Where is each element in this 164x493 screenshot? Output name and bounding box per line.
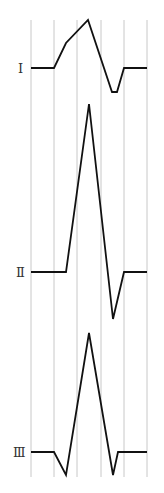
lead-ii-label: Ⅱ (16, 265, 25, 280)
lead-iii-label: Ⅲ (13, 445, 26, 460)
lead-ii: Ⅱ (16, 104, 147, 319)
lead-iii: Ⅲ (13, 333, 147, 475)
ecg-diagram: Ⅰ Ⅱ Ⅲ (0, 0, 164, 493)
grid-lines (31, 20, 147, 477)
lead-i-label: Ⅰ (18, 61, 23, 76)
lead-i-waveform (31, 20, 147, 92)
lead-ii-waveform (31, 104, 147, 319)
lead-i: Ⅰ (18, 20, 147, 92)
lead-iii-waveform (31, 333, 147, 475)
